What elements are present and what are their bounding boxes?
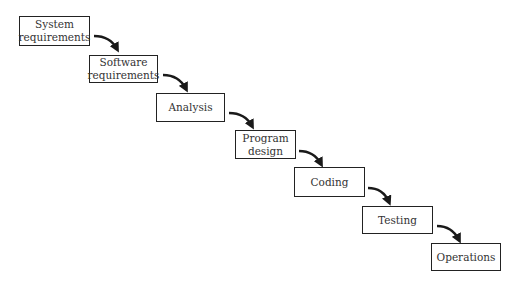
stage-operations: Operations xyxy=(431,243,501,271)
stage-system-requirements: System requirements xyxy=(19,16,90,46)
arrow-icon xyxy=(299,151,321,164)
waterfall-diagram: System requirements Software requirement… xyxy=(0,0,518,286)
stage-testing: Testing xyxy=(362,206,433,234)
arrow-icon xyxy=(229,113,252,126)
stage-program-design: Program design xyxy=(235,130,296,159)
stage-software-requirements: Software requirements xyxy=(89,55,158,83)
stage-analysis: Analysis xyxy=(156,93,225,122)
arrow-icon xyxy=(163,75,186,89)
arrow-icon xyxy=(94,36,117,49)
stage-coding: Coding xyxy=(294,167,365,197)
arrow-icon xyxy=(437,226,459,240)
arrow-icon xyxy=(368,188,389,202)
